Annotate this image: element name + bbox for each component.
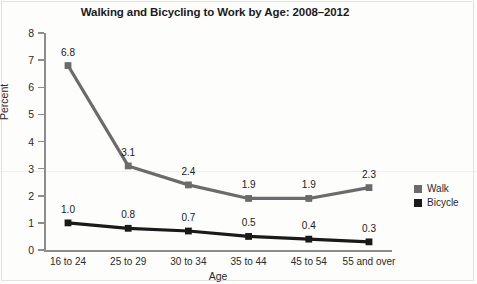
chart-figure: Walking and Bicycling to Work by Age: 20… <box>0 0 477 284</box>
x-axis-title: Age <box>44 270 392 282</box>
legend-item-bicycle[interactable]: Bicycle <box>414 197 459 208</box>
data-point-label: 0.4 <box>302 220 316 231</box>
data-point-label: 1.9 <box>302 179 316 190</box>
data-point-label: 3.1 <box>121 147 135 158</box>
legend-label: Bicycle <box>427 197 459 208</box>
series-line-walk <box>68 66 369 199</box>
chart-legend: WalkBicycle <box>414 183 459 211</box>
data-point-label: 2.3 <box>362 169 376 180</box>
data-point-marker <box>366 238 373 245</box>
data-point-marker <box>366 184 373 191</box>
data-point-marker <box>185 228 192 235</box>
data-point-label: 6.8 <box>61 47 75 58</box>
legend-swatch-icon <box>414 185 422 193</box>
data-point-marker <box>65 62 72 69</box>
legend-item-walk[interactable]: Walk <box>414 183 459 194</box>
data-point-label: 0.3 <box>362 223 376 234</box>
data-point-marker <box>125 225 132 232</box>
data-point-label: 0.5 <box>242 217 256 228</box>
data-point-marker <box>65 219 72 226</box>
data-point-marker <box>245 195 252 202</box>
data-point-marker <box>185 182 192 189</box>
data-point-marker <box>305 195 312 202</box>
legend-swatch-icon <box>414 199 422 207</box>
data-point-label: 0.8 <box>121 209 135 220</box>
data-point-label: 2.4 <box>181 166 195 177</box>
legend-label: Walk <box>427 183 449 194</box>
series-plot-area <box>0 0 477 284</box>
data-point-marker <box>245 233 252 240</box>
series-line-bicycle <box>68 223 369 242</box>
data-point-marker <box>125 163 132 170</box>
data-point-marker <box>305 236 312 243</box>
data-point-label: 1.9 <box>242 179 256 190</box>
data-point-label: 1.0 <box>61 204 75 215</box>
data-point-label: 0.7 <box>181 212 195 223</box>
